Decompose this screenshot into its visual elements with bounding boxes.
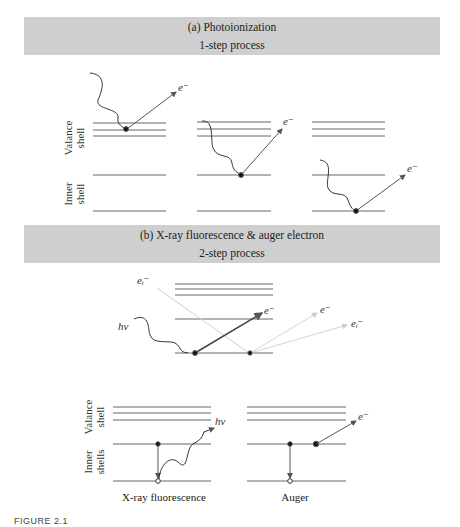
svg-text:e⁻: e⁻ (407, 162, 418, 174)
svg-text:e⁻: e⁻ (283, 115, 294, 127)
incident-electron-label: eᵢ⁻ (137, 274, 150, 286)
photoionization-inner-1: e⁻ (197, 115, 294, 211)
svg-text:shell: shell (94, 407, 106, 428)
svg-text:e⁻: e⁻ (178, 81, 189, 93)
svg-text:Inner: Inner (82, 450, 94, 474)
valance-shell-label-b: Valance shell (82, 399, 106, 434)
svg-text:e⁻: e⁻ (320, 303, 331, 315)
auger-diagram: e⁻ (247, 407, 369, 483)
svg-text:Inner: Inner (62, 182, 74, 206)
svg-text:Valance: Valance (62, 120, 74, 155)
svg-text:shell: shell (74, 128, 86, 149)
incident-photon-label: hν (118, 320, 129, 332)
emitted-photon-label: hν (215, 415, 226, 427)
svg-text:eᵢ⁻: eᵢ⁻ (351, 317, 364, 329)
photoionization-inner-2: e⁻ (312, 122, 418, 214)
svg-text:shells: shells (94, 449, 106, 474)
two-step-overview: eᵢ⁻ hν e⁻ e⁻ eᵢ⁻ (118, 274, 364, 356)
valance-shell-label-a: Valance shell (62, 120, 86, 155)
photoionization-valence: e⁻ (90, 73, 189, 211)
caption-auger: Auger (270, 491, 320, 503)
svg-text:Valance: Valance (82, 399, 94, 434)
caption-fluorescence: X-ray fluorescence (114, 491, 214, 503)
svg-text:shell: shell (74, 184, 86, 205)
inner-shells-label-b: Inner shells (82, 449, 106, 474)
inner-shell-label-a: Inner shell (62, 182, 86, 206)
figure-label: FIGURE 2.1 (14, 516, 68, 526)
xray-fluorescence-diagram: hν (113, 407, 226, 483)
diagram-canvas: Valance shell Inner shell e⁻ e⁻ (0, 0, 460, 527)
svg-text:e⁻: e⁻ (358, 410, 369, 422)
svg-text:e⁻: e⁻ (264, 304, 275, 316)
